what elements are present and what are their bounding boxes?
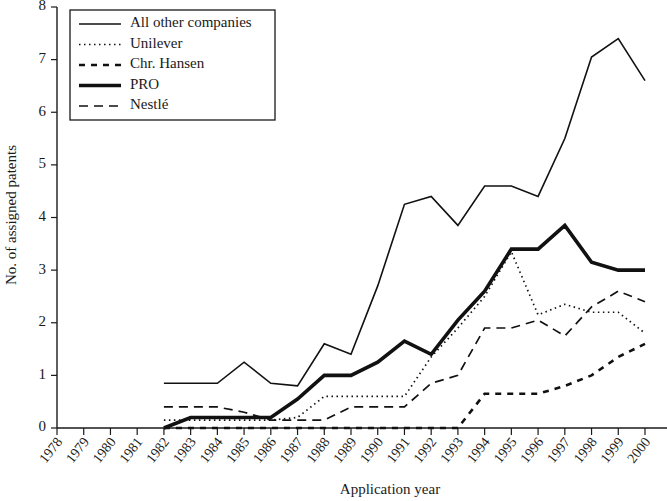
legend-label: All other companies bbox=[130, 14, 252, 30]
legend-label: Chr. Hansen bbox=[130, 55, 205, 71]
legend-label: PRO bbox=[130, 76, 159, 92]
chart-svg: 012345678 197819791980198119821983198419… bbox=[0, 0, 667, 501]
patent-line-chart: 012345678 197819791980198119821983198419… bbox=[0, 0, 667, 501]
legend-label: Unilever bbox=[130, 35, 182, 51]
y-tick-label: 3 bbox=[39, 261, 47, 277]
y-tick-label: 8 bbox=[39, 0, 47, 13]
y-tick-label: 6 bbox=[39, 103, 47, 119]
x-axis-title: Application year bbox=[340, 481, 440, 497]
y-tick-label: 5 bbox=[39, 155, 47, 171]
y-tick-label: 0 bbox=[39, 418, 47, 434]
y-axis-title: No. of assigned patents bbox=[3, 145, 19, 285]
y-tick-label: 7 bbox=[39, 50, 47, 66]
y-tick-label: 2 bbox=[39, 313, 47, 329]
y-tick-label: 4 bbox=[39, 208, 47, 224]
chart-legend: All other companiesUnileverChr. HansenPR… bbox=[70, 10, 275, 120]
y-tick-label: 1 bbox=[39, 366, 47, 382]
legend-label: Nestlé bbox=[130, 96, 169, 112]
